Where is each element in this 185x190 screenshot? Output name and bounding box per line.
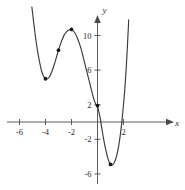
y-axis-tick-label: 2 — [87, 100, 91, 110]
x-axis-tick-label: -6 — [16, 127, 23, 137]
marked-point-local-maximum — [70, 28, 74, 32]
graph-figure: -6-4-221062-2-6xy — [0, 0, 185, 190]
x-axis-label: x — [174, 118, 179, 128]
polynomial-curve — [32, 7, 129, 165]
coordinate-plane-svg: -6-4-221062-2-6xy — [0, 0, 185, 190]
y-axis-label: y — [102, 5, 107, 15]
y-axis-tick-label: 10 — [83, 31, 92, 41]
marked-point-y-intercept — [96, 104, 100, 108]
marked-point-inflection-point — [57, 48, 61, 52]
x-axis-tick-label: -4 — [42, 127, 50, 137]
marked-point-local-minimum-left — [44, 77, 48, 81]
y-axis-arrow-icon — [94, 15, 100, 23]
x-axis-arrow-icon — [166, 119, 174, 125]
y-axis-tick-label: -6 — [84, 169, 91, 179]
x-axis-tick-label: 2 — [121, 127, 125, 137]
y-axis-tick-label: -2 — [84, 134, 91, 144]
x-axis-tick-label: -2 — [68, 127, 75, 137]
marked-point-local-minimum-right — [109, 162, 113, 166]
